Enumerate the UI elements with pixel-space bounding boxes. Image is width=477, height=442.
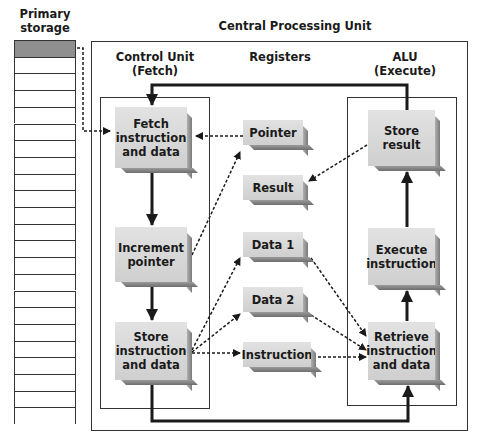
step-text: instruction [116, 344, 187, 358]
storage-cell [14, 341, 76, 358]
primary-storage-label-line1: Primary [14, 7, 76, 21]
storage-cell [14, 324, 76, 341]
storage-cell [14, 407, 76, 424]
step-text: and data [116, 358, 187, 372]
step-text: instruction [366, 257, 437, 271]
storage-cell [14, 207, 76, 224]
storage-cell [14, 307, 76, 324]
step-text: Retrieve [366, 330, 437, 344]
step-text: instruction [366, 344, 437, 358]
step-text: and data [116, 145, 187, 159]
primary-storage-label: Primary storage [14, 7, 76, 35]
storage-cell [14, 174, 76, 191]
execute-instruction-box: Executeinstruction [368, 228, 435, 285]
cpu-title: Central Processing Unit [200, 19, 390, 33]
register-data-1: Data 1 [243, 232, 303, 257]
step-text: pointer [118, 255, 184, 269]
storage-cell [14, 391, 76, 408]
step-text: Increment [118, 241, 184, 255]
store-instruction-box: Storeinstructionand data [115, 322, 187, 380]
storage-cell [14, 224, 76, 241]
step-text: instruction [116, 131, 187, 145]
store-result-box: Storeresult [368, 110, 435, 166]
increment-pointer-box: Incrementpointer [115, 227, 187, 282]
storage-cell [14, 107, 76, 124]
step-text: result [383, 138, 421, 152]
storage-cell [14, 90, 76, 107]
storage-cell [14, 57, 76, 74]
storage-cell [14, 40, 76, 57]
step-text: and data [366, 358, 437, 372]
storage-cell [14, 374, 76, 391]
primary-storage-label-line2: storage [14, 21, 76, 35]
step-text: Execute [366, 243, 437, 257]
storage-cell [14, 257, 76, 274]
storage-cell [14, 140, 76, 157]
storage-cell [14, 73, 76, 90]
storage-cell [14, 274, 76, 291]
register-instruction: Instruction [243, 342, 311, 367]
storage-cell [14, 357, 76, 374]
retrieve-instruction-box: Retrieveinstructionand data [368, 322, 435, 380]
fetch-instruction-box: Fetchinstructionand data [115, 107, 187, 168]
primary-storage [14, 40, 76, 427]
storage-cell [14, 157, 76, 174]
step-text: Store [383, 124, 421, 138]
storage-cell [14, 240, 76, 257]
step-text: Fetch [116, 117, 187, 131]
register-data-2: Data 2 [243, 287, 303, 312]
storage-cell [14, 291, 76, 308]
storage-cell [14, 190, 76, 207]
storage-cell [14, 124, 76, 141]
step-text: Store [116, 330, 187, 344]
register-pointer: Pointer [243, 120, 303, 145]
register-result: Result [243, 175, 303, 200]
